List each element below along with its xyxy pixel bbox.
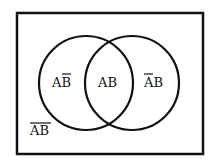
svg-text:AB: AB — [29, 123, 49, 138]
svg-text:AB: AB — [97, 75, 117, 90]
label-intersection: AB — [97, 75, 117, 90]
svg-text:AB: AB — [51, 75, 71, 90]
venn-diagram: AB AB AB AB — [0, 0, 215, 165]
label-a-not-b: AB — [51, 74, 71, 90]
label-neither: AB — [29, 123, 51, 138]
label-not-a-b: AB — [143, 74, 163, 90]
svg-text:AB: AB — [143, 75, 163, 90]
